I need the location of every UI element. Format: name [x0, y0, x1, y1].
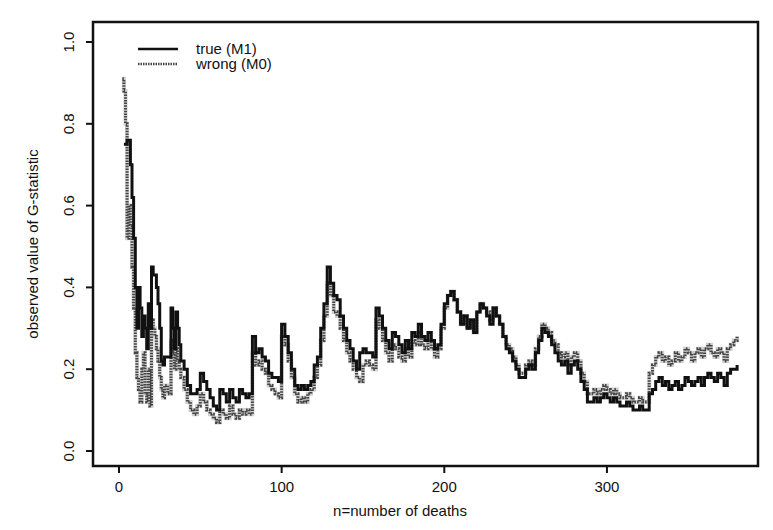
y-tick-label: 0.6	[60, 195, 77, 216]
x-tick-label: 200	[432, 478, 457, 495]
x-axis-title: n=number of deaths	[333, 502, 467, 519]
y-tick-label: 1.0	[60, 32, 77, 53]
y-axis-title: observed value of G-statistic	[24, 149, 41, 339]
series-wrong-m0-halo	[122, 79, 737, 423]
x-tick-label: 300	[594, 478, 619, 495]
y-axis: 0.00.20.40.60.81.0	[60, 32, 93, 462]
legend-label-wrong: wrong (M0)	[195, 55, 272, 72]
series-layer	[122, 79, 737, 423]
series-wrong-m0	[122, 79, 737, 423]
series-true-m1	[124, 140, 737, 410]
plot-frame	[93, 22, 758, 466]
x-axis: 0100200300	[115, 466, 620, 495]
y-tick-label: 0.2	[60, 359, 77, 380]
y-tick-label: 0.4	[60, 277, 77, 298]
legend: true (M1) wrong (M0)	[138, 40, 272, 72]
x-tick-label: 0	[115, 478, 123, 495]
y-tick-label: 0.8	[60, 113, 77, 134]
y-tick-label: 0.0	[60, 441, 77, 462]
x-tick-label: 100	[269, 478, 294, 495]
g-statistic-chart: 0.00.20.40.60.81.0 0100200300 true (M1) …	[0, 0, 773, 530]
